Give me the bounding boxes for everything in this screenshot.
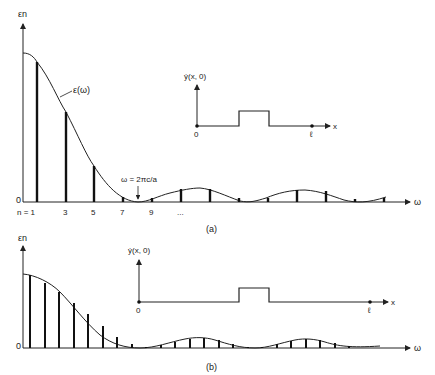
- origin-label: 0: [16, 195, 21, 205]
- pulse-shape: [197, 111, 312, 126]
- inset-x-label: x: [333, 122, 337, 131]
- curve-label-leader: [60, 91, 72, 97]
- inset-origin-label: 0: [136, 306, 141, 315]
- inset-x-label: x: [391, 298, 395, 307]
- curve-label: ε(ω): [73, 85, 90, 95]
- inset-origin-label: 0: [194, 130, 199, 139]
- inset-b: ẏ(x, 0) 0 ℓ x: [128, 246, 395, 315]
- panel-b: εn ω 0 (b: [16, 233, 421, 372]
- pulse-shape: [139, 288, 370, 302]
- inset-end-label: ℓ: [309, 130, 313, 139]
- caption-a: (a): [206, 224, 217, 234]
- x-axis-label: ω: [414, 197, 421, 207]
- zero-annotation: ω = 2πc/a: [121, 175, 158, 184]
- n-label-7: 7: [120, 208, 125, 217]
- inset-end-label: ℓ: [367, 306, 371, 315]
- panel-a: εn ω 0 ε(ω) ω = 2πc/a n = 1 3: [16, 9, 421, 234]
- inset-a: ẏ(x, 0) 0 ℓ x: [184, 72, 337, 139]
- n-label-9: 9: [149, 208, 154, 217]
- inset-y-label: ẏ(x, 0): [128, 246, 151, 255]
- n-label-ellipsis: ...: [177, 208, 184, 217]
- envelope-curve: [23, 274, 380, 348]
- origin-label: 0: [16, 341, 21, 351]
- inset-y-label: ẏ(x, 0): [184, 72, 207, 81]
- n-label-5: 5: [91, 208, 96, 217]
- x-axis-label: ω: [414, 343, 421, 353]
- figure: εn ω 0 ε(ω) ω = 2πc/a n = 1 3: [0, 0, 435, 375]
- y-axis-label: εn: [18, 9, 27, 19]
- y-axis-label: εn: [18, 233, 27, 243]
- caption-b: (b): [206, 362, 217, 372]
- n-label-1: n = 1: [17, 208, 36, 217]
- n-label-3: 3: [63, 208, 68, 217]
- spectral-lines: [37, 62, 384, 202]
